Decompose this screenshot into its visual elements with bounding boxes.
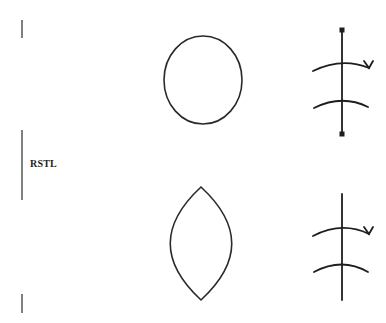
circular-defect-shape bbox=[164, 36, 242, 124]
arc-with-arrow-icon bbox=[313, 63, 369, 71]
arc-with-arrow-icon bbox=[313, 228, 369, 236]
lens-excision-shape bbox=[170, 187, 232, 300]
suture-symbol-bottom bbox=[313, 194, 373, 300]
rstl-label: RSTL bbox=[30, 158, 57, 169]
end-dot-top-icon bbox=[340, 28, 345, 33]
suture-symbol-top bbox=[313, 28, 373, 137]
arc-icon bbox=[314, 101, 368, 108]
end-dot-bottom-icon bbox=[340, 132, 345, 137]
diagram-canvas bbox=[0, 0, 386, 323]
arc-icon bbox=[314, 265, 368, 273]
